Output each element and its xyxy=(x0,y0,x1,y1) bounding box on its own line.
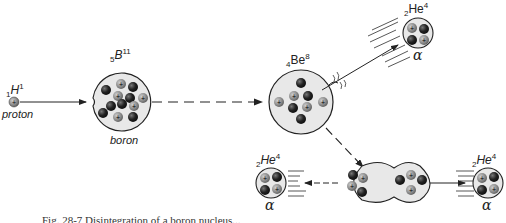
reaction-diagram: + + + + + + + + + + xyxy=(0,0,506,223)
svg-text:+: + xyxy=(321,99,325,106)
beryllium-mass-number: 8 xyxy=(305,52,309,61)
svg-text:+: + xyxy=(422,37,426,44)
alpha-left-label: α xyxy=(265,197,274,213)
helium-top-mass-number: 4 xyxy=(424,1,428,10)
svg-text:+: + xyxy=(132,103,136,110)
boron-mass-number: 11 xyxy=(122,47,130,56)
svg-text:+: + xyxy=(116,93,120,100)
svg-text:+: + xyxy=(305,104,309,111)
svg-text:+: + xyxy=(492,186,496,193)
svg-text:+: + xyxy=(141,95,145,102)
motion-lines-left xyxy=(288,171,306,196)
helium-right-symbol-label: 2He4 xyxy=(472,152,496,169)
svg-text:+: + xyxy=(275,186,279,193)
helium-left-symbol: He xyxy=(260,153,275,167)
helium-left-nucleus: + + xyxy=(256,168,286,198)
svg-text:+: + xyxy=(263,175,267,182)
boron-symbol-label: 5B11 xyxy=(110,47,131,64)
svg-text:+: + xyxy=(116,114,120,121)
boron-nucleus: + + + + + xyxy=(93,73,151,131)
svg-text:+: + xyxy=(12,99,16,106)
motion-lines-top xyxy=(368,18,410,67)
svg-text:+: + xyxy=(409,187,413,194)
alpha-top-label: α xyxy=(413,47,422,63)
svg-text:+: + xyxy=(409,172,413,179)
boron-name-label: boron xyxy=(110,134,138,146)
beryllium-nucleus: + + + + xyxy=(269,70,346,134)
beryllium-symbol-label: 4Be8 xyxy=(286,52,310,69)
svg-text:+: + xyxy=(119,81,123,88)
svg-text:+: + xyxy=(480,175,484,182)
svg-text:+: + xyxy=(277,99,281,106)
helium-left-mass-number: 4 xyxy=(276,152,280,161)
proton-mass-number: 1 xyxy=(19,82,23,91)
svg-text:+: + xyxy=(410,25,414,32)
arrow-to-alpha-top xyxy=(322,45,398,90)
alpha-right-label: α xyxy=(482,197,491,213)
helium-left-symbol-label: 2He4 xyxy=(256,152,280,169)
beryllium-symbol: Be xyxy=(290,53,305,67)
helium-top-symbol: He xyxy=(408,2,423,16)
svg-text:+: + xyxy=(292,93,296,100)
svg-text:+: + xyxy=(350,183,354,190)
svg-text:+: + xyxy=(361,175,365,182)
proton-name-label: proton xyxy=(2,108,33,120)
helium-top-nucleus: + + xyxy=(403,18,433,48)
helium-top-symbol-label: 2He4 xyxy=(404,1,428,18)
proton-symbol-label: 1H1 xyxy=(6,82,24,99)
helium-right-symbol: He xyxy=(476,153,491,167)
figure-caption: Fig. 28-7 Disintegration of a boron nucl… xyxy=(42,214,241,223)
proton-symbol: H xyxy=(10,83,19,97)
splitting-nucleus: + + + + xyxy=(347,162,430,202)
dashed-arrow-to-split xyxy=(326,128,363,167)
helium-right-mass-number: 4 xyxy=(492,152,496,161)
helium-right-nucleus: + + xyxy=(473,168,503,198)
